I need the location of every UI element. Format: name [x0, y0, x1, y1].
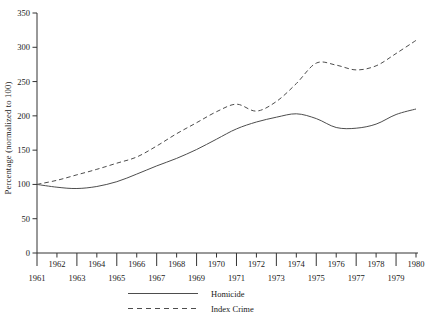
svg-text:1965: 1965	[108, 273, 125, 283]
legend: Homicide Index Crime	[128, 286, 254, 316]
svg-text:1976: 1976	[328, 259, 345, 269]
svg-text:1961: 1961	[29, 273, 46, 283]
svg-text:100: 100	[17, 179, 30, 189]
svg-text:200: 200	[17, 111, 30, 121]
svg-text:150: 150	[17, 145, 30, 155]
svg-text:1966: 1966	[128, 259, 145, 269]
svg-text:1969: 1969	[188, 273, 205, 283]
svg-text:1980: 1980	[408, 259, 425, 269]
svg-text:0: 0	[26, 248, 30, 258]
svg-text:1963: 1963	[68, 273, 85, 283]
legend-item-homicide: Homicide	[128, 286, 254, 301]
svg-text:50: 50	[22, 214, 31, 224]
legend-label-index-crime: Index Crime	[211, 304, 254, 314]
svg-text:1977: 1977	[348, 273, 365, 283]
svg-text:1979: 1979	[388, 273, 405, 283]
svg-text:1971: 1971	[228, 273, 245, 283]
svg-text:1974: 1974	[288, 259, 306, 269]
dashed-line-sample	[128, 308, 198, 309]
svg-text:1978: 1978	[368, 259, 385, 269]
y-tick-marks	[33, 13, 38, 253]
svg-text:1973: 1973	[268, 273, 285, 283]
svg-text:1967: 1967	[148, 273, 165, 283]
svg-text:1968: 1968	[168, 259, 185, 269]
x-tick-labels: 1961196219631964196519661967196819691970…	[29, 259, 425, 283]
y-tick-labels: 050100150200250300350	[17, 8, 30, 258]
index-crime-line	[37, 40, 416, 184]
svg-text:300: 300	[17, 42, 30, 52]
svg-text:1975: 1975	[308, 273, 325, 283]
chart-figure: 0501001502002503003501961196219631964196…	[0, 0, 435, 323]
svg-text:1970: 1970	[208, 259, 225, 269]
svg-text:1972: 1972	[248, 259, 265, 269]
svg-text:350: 350	[17, 8, 30, 18]
solid-line-sample	[128, 293, 198, 294]
y-axis-title: Percentage (normalized to 100)	[3, 63, 13, 213]
legend-label-homicide: Homicide	[211, 289, 245, 299]
legend-item-index-crime: Index Crime	[128, 301, 254, 316]
homicide-line	[37, 109, 416, 189]
svg-text:250: 250	[17, 77, 30, 87]
svg-text:1964: 1964	[88, 259, 106, 269]
plot-area: 0501001502002503003501961196219631964196…	[0, 0, 435, 323]
svg-text:1962: 1962	[48, 259, 65, 269]
